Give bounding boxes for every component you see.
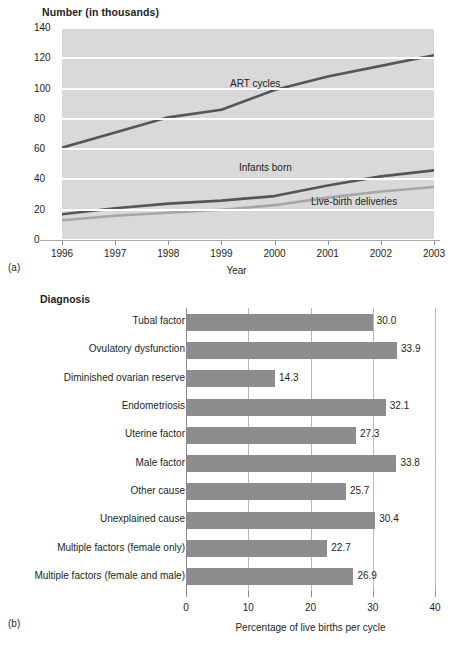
x-tick-mark-b bbox=[186, 591, 187, 597]
x-tick-label-a: 1999 bbox=[201, 248, 241, 259]
bar-category-label: Other cause bbox=[131, 485, 185, 496]
series-label-live-birth-deliveries: Live-birth deliveries bbox=[311, 196, 397, 207]
y-axis-title-b: Diagnosis bbox=[40, 293, 90, 305]
bar-value-label: 25.7 bbox=[350, 485, 369, 496]
figure-container: Number (in thousands) 140120100806040200… bbox=[0, 0, 453, 661]
x-tick-label-b: 10 bbox=[233, 602, 263, 613]
bar-category-label: Multiple factors (female and male) bbox=[34, 570, 185, 581]
bar-row[interactable]: Male factor33.8 bbox=[0, 450, 453, 478]
bar-row[interactable]: Multiple factors (female and male)26.9 bbox=[0, 563, 453, 591]
bar-category-label: Tubal factor bbox=[133, 315, 185, 326]
plot-area-a bbox=[62, 28, 434, 240]
y-tick-label-a: 80 bbox=[34, 113, 60, 124]
bar[interactable] bbox=[186, 370, 275, 387]
bar-row[interactable]: Other cause25.7 bbox=[0, 478, 453, 506]
x-tick-label-b: 20 bbox=[296, 602, 326, 613]
bar-value-label: 22.7 bbox=[331, 542, 350, 553]
x-tick-label-a: 1998 bbox=[148, 248, 188, 259]
x-tick-label-b: 30 bbox=[358, 602, 388, 613]
bar[interactable] bbox=[186, 399, 386, 416]
series-label-infants-born: Infants born bbox=[239, 162, 292, 173]
x-tick-label-a: 2000 bbox=[255, 248, 295, 259]
bar[interactable] bbox=[186, 314, 373, 331]
bar-row[interactable]: Ovulatory dysfunction33.9 bbox=[0, 336, 453, 364]
y-axis-title-a: Number (in thousands) bbox=[42, 6, 159, 18]
panel-a-line-chart: Number (in thousands) 140120100806040200… bbox=[0, 0, 453, 290]
panel-tag-a: (a) bbox=[8, 262, 20, 273]
x-axis-title-a-text: Year bbox=[226, 265, 246, 276]
bar-row[interactable]: Endometriosis32.1 bbox=[0, 393, 453, 421]
gridline-a bbox=[62, 118, 434, 120]
bar[interactable] bbox=[186, 568, 353, 585]
bar-row[interactable]: Uterine factor27.3 bbox=[0, 421, 453, 449]
gridline-a bbox=[62, 178, 434, 180]
gridline-a bbox=[62, 209, 434, 211]
y-tick-label-a: 100 bbox=[34, 83, 60, 94]
x-tick-label-a: 2002 bbox=[361, 248, 401, 259]
line-art-cycles bbox=[62, 55, 434, 147]
bar-category-label: Male factor bbox=[136, 457, 185, 468]
x-tick-mark-b bbox=[373, 591, 374, 597]
x-tick-label-b: 40 bbox=[420, 602, 450, 613]
bar-category-label: Diminished ovarian reserve bbox=[64, 372, 185, 383]
bar[interactable] bbox=[186, 540, 327, 557]
bar-category-label: Endometriosis bbox=[122, 400, 185, 411]
x-axis-title-a: Year bbox=[0, 265, 453, 276]
y-tick-label-a: 120 bbox=[34, 52, 60, 63]
x-tick-label-a: 1997 bbox=[95, 248, 135, 259]
bar[interactable] bbox=[186, 427, 356, 444]
x-tick-mark-b bbox=[311, 591, 312, 597]
bar-value-label: 30.0 bbox=[377, 315, 396, 326]
panel-b-bar-chart: Diagnosis Tubal factor30.0Ovulatory dysf… bbox=[0, 290, 453, 661]
y-tick-label-a: 40 bbox=[34, 173, 60, 184]
bar-value-label: 33.8 bbox=[400, 457, 419, 468]
bar[interactable] bbox=[186, 342, 397, 359]
y-tick-label-a: 60 bbox=[34, 143, 60, 154]
bar-value-label: 33.9 bbox=[401, 343, 420, 354]
x-axis-line-a bbox=[40, 240, 440, 241]
bar[interactable] bbox=[186, 512, 375, 529]
bar-row[interactable]: Tubal factor30.0 bbox=[0, 308, 453, 336]
bar-value-label: 14.3 bbox=[279, 372, 298, 383]
x-tick-label-a: 1996 bbox=[42, 248, 82, 259]
bar-row[interactable]: Unexplained cause30.4 bbox=[0, 506, 453, 534]
y-tick-label-a: 20 bbox=[34, 204, 60, 215]
x-tick-label-b: 0 bbox=[171, 602, 201, 613]
x-tick-mark-b bbox=[248, 591, 249, 597]
bar-row[interactable]: Multiple factors (female only)22.7 bbox=[0, 534, 453, 562]
x-axis-title-b: Percentage of live births per cycle bbox=[186, 622, 435, 633]
gridline-a bbox=[62, 57, 434, 59]
y-tick-label-a: 140 bbox=[34, 22, 60, 33]
bar-value-label: 27.3 bbox=[360, 428, 379, 439]
bar-category-label: Uterine factor bbox=[125, 428, 185, 439]
x-tick-label-a: 2003 bbox=[414, 248, 453, 259]
gridline-a bbox=[62, 148, 434, 150]
bar-category-label: Ovulatory dysfunction bbox=[89, 343, 185, 354]
gridline-a bbox=[62, 27, 434, 29]
bar-value-label: 26.9 bbox=[357, 570, 376, 581]
bar-row[interactable]: Diminished ovarian reserve14.3 bbox=[0, 365, 453, 393]
bar-category-label: Unexplained cause bbox=[100, 513, 185, 524]
bar[interactable] bbox=[186, 483, 346, 500]
bar-category-label: Multiple factors (female only) bbox=[57, 542, 185, 553]
bar[interactable] bbox=[186, 455, 396, 472]
bar-value-label: 32.1 bbox=[390, 400, 409, 411]
x-tick-label-a: 2001 bbox=[308, 248, 348, 259]
series-label-art-cycles: ART cycles bbox=[230, 78, 280, 89]
bar-value-label: 30.4 bbox=[379, 513, 398, 524]
x-tick-mark-b bbox=[435, 591, 436, 597]
panel-tag-b: (b) bbox=[8, 618, 20, 629]
